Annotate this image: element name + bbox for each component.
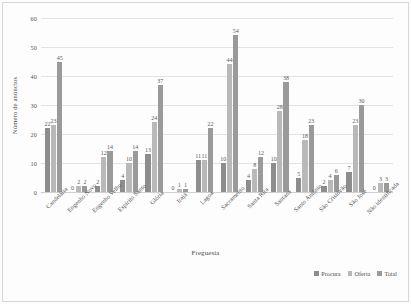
bar-group: 222345: [41, 18, 66, 192]
bar-value-label: 0: [172, 185, 175, 191]
bar-value-label: 2: [96, 179, 99, 185]
x-axis-title: Freguesia: [0, 249, 411, 256]
bar-value-label: 22: [44, 121, 50, 127]
bar-oferta: 8: [252, 169, 257, 192]
bar-value-label: 38: [283, 75, 289, 81]
legend-label: Total: [384, 270, 397, 277]
x-tick-slot: Lagoa: [192, 193, 217, 251]
bar-total: 30: [359, 105, 364, 192]
bar-total: 22: [208, 128, 213, 192]
x-tick-slot: Glória: [142, 193, 167, 251]
bar-oferta: 28: [277, 111, 282, 192]
bar-group: 246: [318, 18, 343, 192]
bar-value-label: 11: [195, 153, 201, 159]
x-tick-slot: Santa Rita: [242, 193, 267, 251]
bar-value-label: 44: [227, 57, 233, 63]
x-tick-slot: Não identificada: [368, 193, 393, 251]
legend-item-procura[interactable]: Procura: [314, 270, 340, 277]
x-tick-slot: Irajá: [167, 193, 192, 251]
bar-value-label: 8: [253, 162, 256, 168]
y-tick-label-50: 50: [31, 44, 37, 51]
x-axis-category-labels: CandeláriaEngenho NovoEngenho VelhoEspír…: [41, 193, 393, 251]
bar-value-label: 14: [132, 144, 138, 150]
bar-oferta: 4: [328, 180, 333, 192]
bar-value-label: 30: [358, 98, 364, 104]
x-tick-slot: Espírito Santo: [116, 193, 141, 251]
bar-value-label: 24: [151, 115, 157, 121]
bar-groups: 2223450222121441014132437011111122104454…: [41, 18, 393, 192]
bar-value-label: 1: [184, 182, 187, 188]
bar-value-label: 14: [107, 144, 113, 150]
bar-chart-figure: Número de anúncios 0102030405060 2223450…: [0, 0, 411, 304]
bar-value-label: 0: [373, 185, 376, 191]
bar-total: 45: [57, 62, 62, 193]
bar-oferta: 18: [302, 140, 307, 192]
x-tick-slot: Santo Antônio: [292, 193, 317, 251]
bar-value-label: 5: [297, 171, 300, 177]
y-tick-label-30: 30: [31, 102, 37, 109]
bar-value-label: 10: [126, 156, 132, 162]
bar-procura: 7: [346, 172, 351, 192]
bar-value-label: 54: [233, 28, 239, 34]
legend-item-total[interactable]: Total: [377, 270, 397, 277]
bar-procura: 11: [196, 160, 201, 192]
bar-oferta: 10: [126, 163, 131, 192]
bar-value-label: 7: [348, 165, 351, 171]
y-tick-label-10: 10: [31, 160, 37, 167]
x-tick-slot: Sacramento: [217, 193, 242, 251]
bar-value-label: 4: [121, 173, 124, 179]
bar-value-label: 10: [271, 156, 277, 162]
bar-group: 111122: [192, 18, 217, 192]
bar-value-label: 11: [202, 153, 208, 159]
bar-oferta: 3: [378, 183, 383, 192]
x-tick-slot: São José: [343, 193, 368, 251]
bar-oferta: 23: [353, 125, 358, 192]
legend-label: Procura: [321, 270, 340, 277]
y-axis-title: Número de anúncios: [9, 18, 21, 192]
bar-value-label: 4: [247, 173, 250, 179]
bar-group: 132437: [142, 18, 167, 192]
bar-group: 104454: [217, 18, 242, 192]
bar-group: 41014: [116, 18, 141, 192]
bar-group: 033: [368, 18, 393, 192]
bar-value-label: 13: [145, 147, 151, 153]
bar-total: 54: [233, 35, 238, 192]
y-tick-label-20: 20: [31, 131, 37, 138]
bar-total: 23: [309, 125, 314, 192]
bar-group: 21214: [91, 18, 116, 192]
bar-oferta: 11: [202, 160, 207, 192]
x-tick-slot: Santana: [267, 193, 292, 251]
bar-value-label: 0: [71, 185, 74, 191]
bar-value-label: 23: [308, 118, 314, 124]
bar-value-label: 23: [352, 118, 358, 124]
bar-value-label: 12: [258, 150, 264, 156]
y-axis-title-text: Número de anúncios: [12, 76, 19, 133]
bar-total: 38: [283, 82, 288, 192]
bar-procura: 4: [246, 180, 251, 192]
bar-value-label: 10: [220, 156, 226, 162]
bar-value-label: 1: [178, 182, 181, 188]
plot-area: 0102030405060 22234502221214410141324370…: [41, 18, 393, 192]
bar-value-label: 4: [329, 173, 332, 179]
bar-value-label: 45: [57, 55, 63, 61]
legend-item-oferta[interactable]: Oferta: [348, 270, 371, 277]
bar-value-label: 22: [208, 121, 214, 127]
bar-oferta: 2: [76, 186, 81, 192]
x-tick-slot: Engenho Velho: [91, 193, 116, 251]
bar-value-label: 28: [277, 104, 283, 110]
legend-label: Oferta: [355, 270, 371, 277]
x-tick-slot: Candelária: [41, 193, 66, 251]
bar-value-label: 3: [379, 176, 382, 182]
bar-oferta: 24: [152, 122, 157, 192]
bar-group: 72330: [343, 18, 368, 192]
bar-oferta: 44: [227, 64, 232, 192]
x-tick-label: Irajá: [175, 191, 188, 204]
legend-swatch-icon: [348, 271, 353, 276]
bar-total: 37: [158, 85, 163, 192]
bar-value-label: 2: [77, 179, 80, 185]
bar-value-label: 18: [302, 133, 308, 139]
bar-group: 022: [66, 18, 91, 192]
bar-group: 011: [167, 18, 192, 192]
legend-swatch-icon: [314, 271, 319, 276]
bar-procura: 10: [221, 163, 226, 192]
